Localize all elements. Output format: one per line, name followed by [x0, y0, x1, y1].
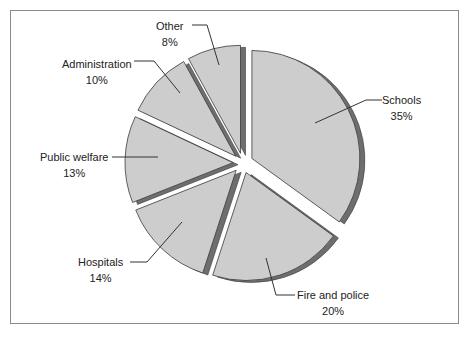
label-hospitals-name: Hospitals	[78, 254, 123, 270]
label-welfare-name: Public welfare	[40, 149, 108, 165]
label-schools: Schools 35%	[382, 92, 421, 124]
label-admin: Administration 10%	[62, 56, 132, 88]
label-schools-pct: 35%	[382, 108, 421, 124]
label-fire-pct: 20%	[297, 303, 369, 319]
label-admin-pct: 10%	[62, 72, 132, 88]
label-welfare: Public welfare 13%	[40, 149, 108, 181]
label-other-pct: 8%	[156, 34, 184, 50]
label-other: Other 8%	[156, 18, 184, 50]
label-welfare-pct: 13%	[40, 165, 108, 181]
label-fire-name: Fire and police	[297, 287, 369, 303]
label-admin-name: Administration	[62, 56, 132, 72]
label-hospitals-pct: 14%	[78, 270, 123, 286]
label-other-name: Other	[156, 18, 184, 34]
label-fire: Fire and police 20%	[297, 287, 369, 319]
label-schools-name: Schools	[382, 92, 421, 108]
label-hospitals: Hospitals 14%	[78, 254, 123, 286]
